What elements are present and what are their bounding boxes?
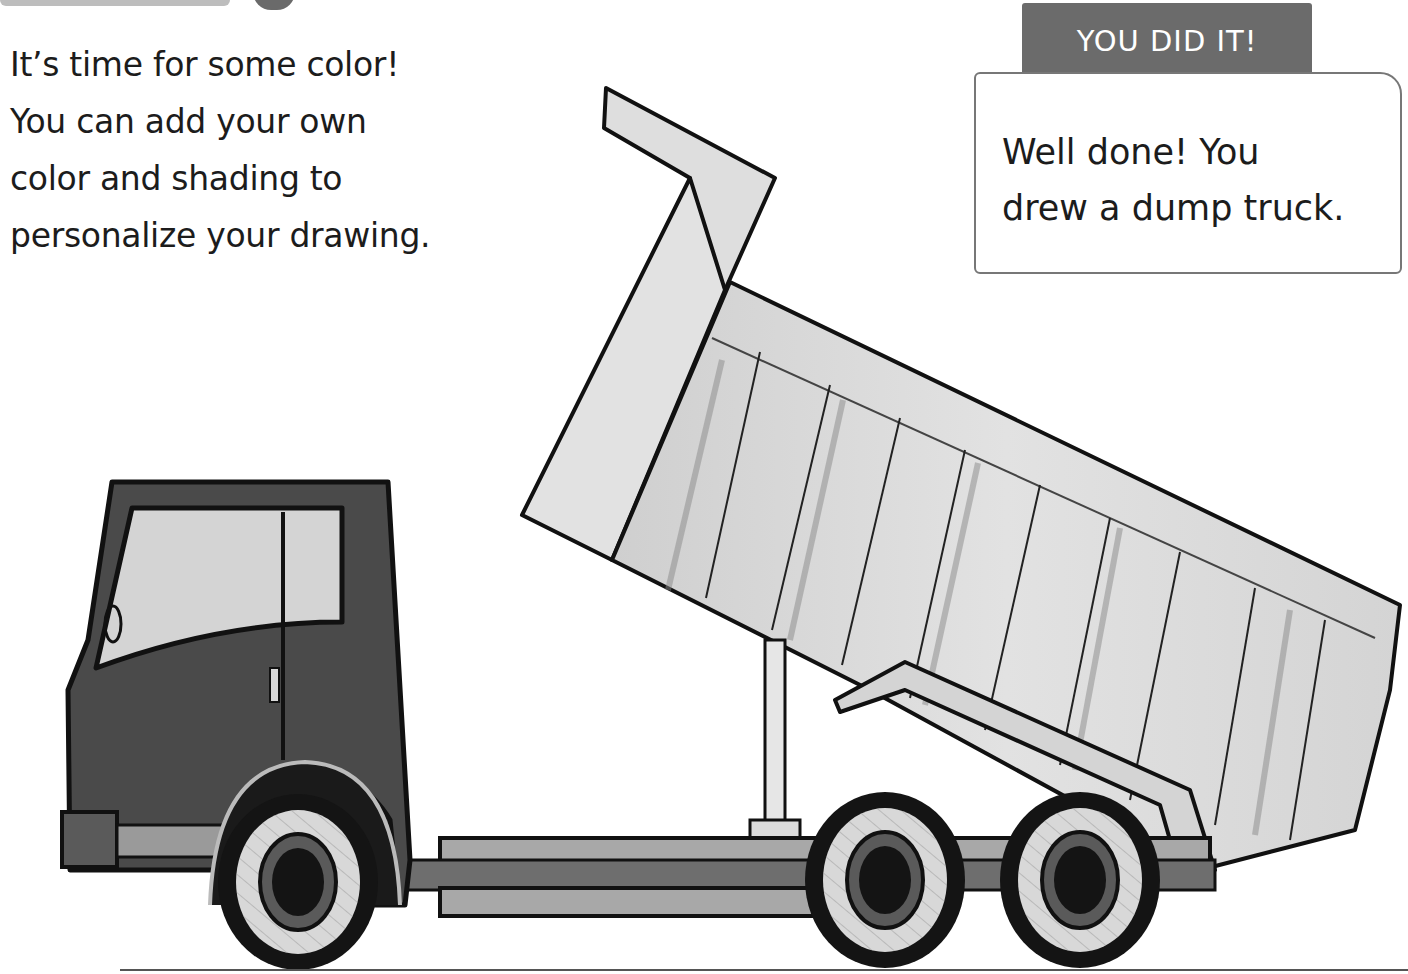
front-wheel	[218, 794, 378, 970]
badge-title: YOU DID IT!	[1077, 24, 1258, 58]
badge-message-line: Well done! You	[1002, 124, 1344, 180]
badge-message: Well done! You drew a dump truck.	[1002, 124, 1344, 236]
you-did-it-badge: YOU DID IT!	[1022, 3, 1312, 73]
badge-message-box: Well done! You drew a dump truck.	[974, 72, 1402, 274]
rear-wheel-1	[805, 792, 965, 968]
badge-message-line: drew a dump truck.	[1002, 180, 1344, 236]
rear-wheel-2	[1000, 792, 1160, 968]
hydraulic-lift	[750, 640, 800, 840]
